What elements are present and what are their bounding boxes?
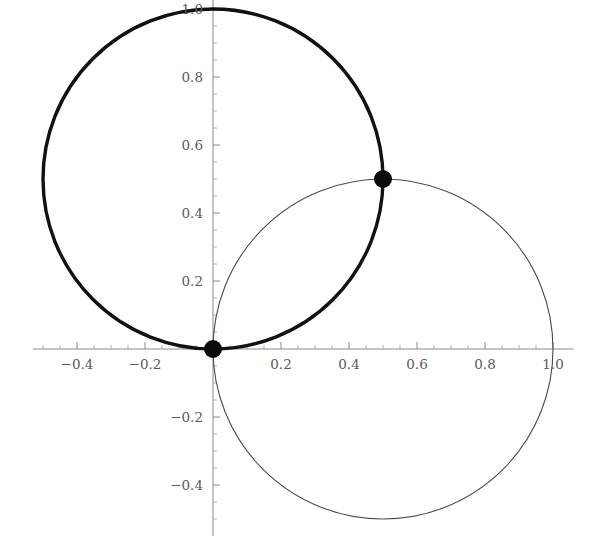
x-tick-label: 1.0 xyxy=(542,356,563,372)
x-tick-label: 0.2 xyxy=(270,356,291,372)
y-tick-label: 0.4 xyxy=(182,205,203,221)
y-tick-label: 1.0 xyxy=(182,1,203,17)
x-tick-label: 0.4 xyxy=(338,356,359,372)
x-tick-label: 0.8 xyxy=(474,356,495,372)
tick-labels: −0.4−0.20.20.40.60.81.0−0.4−0.20.20.40.6… xyxy=(61,1,564,493)
y-tick-label: −0.4 xyxy=(170,477,203,493)
point-origin-intersection xyxy=(204,340,222,358)
x-tick-label: 0.6 xyxy=(406,356,427,372)
y-tick-label: 0.8 xyxy=(182,69,203,85)
x-tick-label: −0.4 xyxy=(61,356,94,372)
axes xyxy=(33,0,574,536)
y-tick-label: 0.2 xyxy=(182,273,203,289)
y-tick-label: 0.6 xyxy=(182,137,203,153)
y-tick-label: −0.2 xyxy=(170,409,203,425)
point-upper-intersection xyxy=(374,170,392,188)
plot-canvas: −0.4−0.20.20.40.60.81.0−0.4−0.20.20.40.6… xyxy=(0,0,590,549)
plot-figure: −0.4−0.20.20.40.60.81.0−0.4−0.20.20.40.6… xyxy=(0,0,590,549)
data-points xyxy=(204,170,392,358)
x-tick-label: −0.2 xyxy=(129,356,162,372)
curves xyxy=(43,9,553,519)
